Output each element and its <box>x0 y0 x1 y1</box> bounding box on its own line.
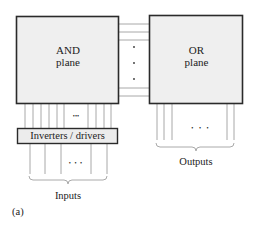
diagram-graphics <box>0 0 258 230</box>
literal-ellipsis: ••• <box>66 110 86 122</box>
pla-diagram: AND plane OR plane ••• Inverters / drive… <box>0 0 258 230</box>
product-term-lines <box>119 24 149 96</box>
output-ellipsis: • • • <box>178 122 224 134</box>
inputs-brace <box>29 176 107 184</box>
figure-caption: (a) <box>12 206 36 218</box>
or-plane-title: OR plane <box>150 44 243 68</box>
inverters-label: Inverters / drivers <box>17 130 118 142</box>
and-plane-title: AND plane <box>17 44 119 68</box>
inputs-label: Inputs <box>43 190 93 202</box>
input-ellipsis: • • • <box>62 157 90 169</box>
outputs-brace <box>156 143 234 151</box>
vertical-ellipsis <box>133 46 135 80</box>
outputs-label: Outputs <box>168 156 224 168</box>
